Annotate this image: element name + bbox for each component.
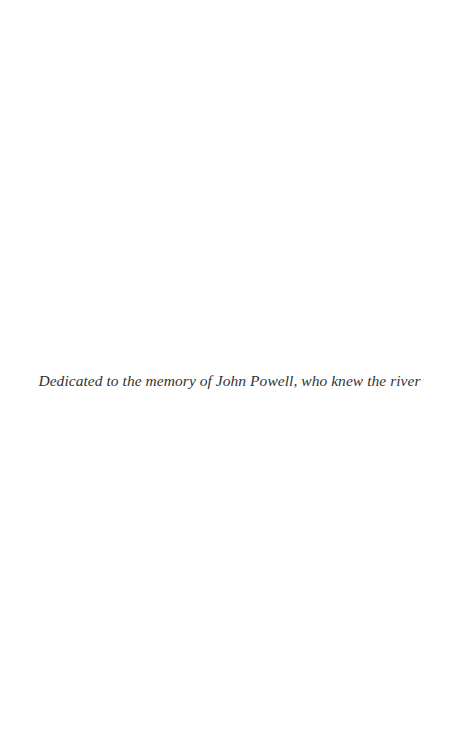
dedication-text: Dedicated to the memory of John Powell, … xyxy=(0,371,459,391)
dedication-page: Dedicated to the memory of John Powell, … xyxy=(0,0,459,746)
